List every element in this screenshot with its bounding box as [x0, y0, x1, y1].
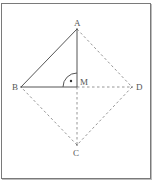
point-B: [20, 86, 22, 88]
segment-DC: [77, 87, 132, 145]
segment-CB: [21, 87, 77, 145]
point-A: [76, 28, 78, 30]
right-angle-dot: [70, 80, 72, 82]
label-D: D: [136, 82, 143, 92]
point-D: [131, 86, 133, 88]
segment-AB: [21, 29, 77, 87]
label-C: C: [73, 148, 79, 158]
label-A: A: [74, 18, 81, 28]
label-B: B: [12, 82, 18, 92]
right-angle-arc: [63, 73, 77, 87]
geometry-diagram: A B M D C: [0, 0, 155, 183]
label-M: M: [80, 77, 88, 87]
point-C: [76, 144, 78, 146]
